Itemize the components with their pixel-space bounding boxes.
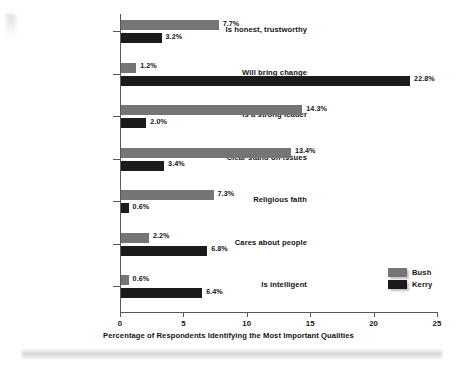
bar-bush bbox=[121, 63, 136, 73]
bar-value-label: 3.4% bbox=[168, 159, 185, 168]
bar-kerry bbox=[121, 288, 202, 298]
bar-kerry bbox=[121, 161, 164, 171]
bar-value-label: 6.8% bbox=[211, 244, 228, 253]
bar-value-label: 2.0% bbox=[150, 117, 167, 126]
bar-kerry bbox=[121, 76, 410, 86]
bar-value-label: 1.2% bbox=[140, 61, 157, 70]
bar-value-label: 6.4% bbox=[206, 287, 223, 296]
x-tick bbox=[120, 312, 121, 317]
x-tick bbox=[374, 312, 375, 317]
bar-value-label: 7.7% bbox=[223, 19, 240, 28]
bar-bush bbox=[121, 20, 219, 30]
bar-bush bbox=[121, 105, 302, 115]
bar-bush bbox=[121, 233, 149, 243]
x-tick bbox=[437, 312, 438, 317]
bar-group: Religious faith7.3%0.6% bbox=[120, 186, 437, 229]
legend-swatch-bush bbox=[388, 268, 407, 277]
x-tick bbox=[183, 312, 184, 317]
legend-swatch-kerry bbox=[388, 280, 407, 289]
x-tick-label: 25 bbox=[433, 319, 442, 328]
legend: Bush Kerry bbox=[388, 268, 432, 289]
bar-value-label: 7.3% bbox=[218, 189, 235, 198]
x-tick bbox=[247, 312, 248, 317]
bar-group: Is honest, trustworthy7.7%3.2% bbox=[120, 16, 437, 59]
x-tick bbox=[310, 312, 311, 317]
bar-value-label: 0.6% bbox=[133, 202, 150, 211]
bar-kerry bbox=[121, 203, 129, 213]
bar-value-label: 14.3% bbox=[306, 104, 327, 113]
bar-value-label: 3.2% bbox=[166, 32, 183, 41]
bar-group: Will bring change1.2%22.8% bbox=[120, 59, 437, 102]
bar-group: Cares about people2.2%6.8% bbox=[120, 229, 437, 272]
bar-chart: Is honest, trustworthy7.7%3.2%Will bring… bbox=[0, 0, 457, 368]
x-tick-label: 15 bbox=[306, 319, 315, 328]
x-tick-label: 10 bbox=[242, 319, 251, 328]
bar-value-label: 22.8% bbox=[414, 74, 435, 83]
bar-kerry bbox=[121, 118, 146, 128]
bar-group: Is a strong leader14.3%2.0% bbox=[120, 101, 437, 144]
legend-label-kerry: Kerry bbox=[412, 280, 432, 289]
legend-item-bush: Bush bbox=[388, 268, 432, 277]
bar-kerry bbox=[121, 246, 207, 256]
bar-bush bbox=[121, 190, 214, 200]
x-tick-label: 5 bbox=[181, 319, 185, 328]
x-axis-title: Percentage of Respondents Identifying th… bbox=[0, 331, 457, 340]
bar-bush bbox=[121, 148, 291, 158]
scan-artifact-bottom-band bbox=[22, 349, 442, 359]
bar-group: Clear stand on issues13.4%3.4% bbox=[120, 144, 437, 187]
x-tick-label: 20 bbox=[369, 319, 378, 328]
legend-label-bush: Bush bbox=[412, 268, 431, 277]
bar-bush bbox=[121, 275, 129, 285]
scan-artifact-top-left bbox=[6, 14, 16, 40]
bar-value-label: 2.2% bbox=[153, 231, 170, 240]
legend-item-kerry: Kerry bbox=[388, 280, 432, 289]
bar-kerry bbox=[121, 33, 162, 43]
bar-value-label: 13.4% bbox=[295, 146, 316, 155]
x-tick-label: 0 bbox=[118, 319, 122, 328]
bar-value-label: 0.6% bbox=[133, 274, 150, 283]
